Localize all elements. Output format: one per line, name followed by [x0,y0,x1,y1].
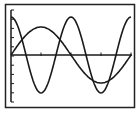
calculator-graph-screen [0,0,140,114]
